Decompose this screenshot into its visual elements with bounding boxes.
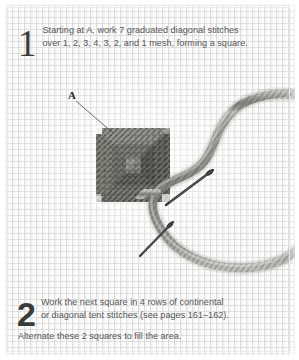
instruction-page: A 1 Starting at A, work 7 graduated diag…: [0, 0, 299, 360]
callout-label-a: A: [68, 89, 76, 101]
step-2-text: Work the next square in 4 rows of contin…: [41, 296, 229, 323]
step-2-line-2: or diagonal tent stitches (see pages 161…: [41, 309, 229, 322]
step-1-number: 1: [18, 25, 37, 62]
step-1-text: Starting at A, work 7 graduated diagonal…: [43, 24, 248, 51]
step-2-line-1: Work the next square in 4 rows of contin…: [41, 296, 229, 309]
step-1-block: 1 Starting at A, work 7 graduated diagon…: [17, 24, 248, 62]
step-1-line-1: Starting at A, work 7 graduated diagonal…: [43, 24, 248, 37]
step-1-line-2: over 1, 2, 3, 4, 3, 2, and 1 mesh, formi…: [43, 37, 248, 50]
step-2-number: 2: [17, 297, 36, 331]
step-2-block: 2 Work the next square in 4 rows of cont…: [17, 296, 229, 331]
step-2-line-3: Alternate these 2 squares to fill the ar…: [18, 330, 181, 343]
